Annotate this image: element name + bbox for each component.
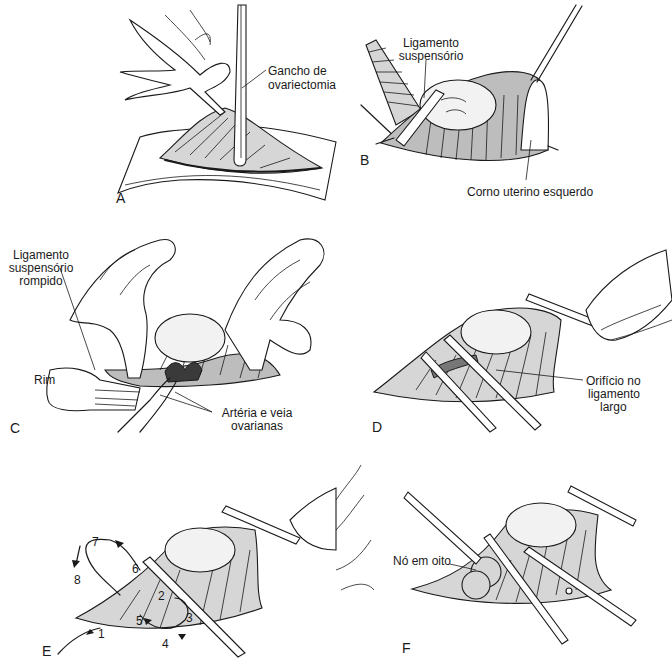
- panel-letter-c: C: [10, 420, 20, 436]
- label-suspensory-ligament-line1: Ligamento: [396, 36, 466, 50]
- panel-e-illustration: [0, 440, 336, 665]
- panel-letter-e: E: [42, 643, 51, 659]
- suture-step-4: 4: [162, 638, 169, 650]
- suture-step-3: 3: [186, 612, 193, 624]
- leader-line-hook: [0, 0, 336, 210]
- panel-c: Ligamento suspensório rompido Rim Artéri…: [0, 210, 336, 440]
- panel-a: Gancho de ovariectomia A: [0, 0, 336, 210]
- label-figure-eight-knot: Nó em oito: [393, 554, 451, 568]
- label-torn-ligament-line3: rompido: [6, 274, 76, 288]
- panel-b-illustration: [336, 0, 672, 210]
- panel-e: 1 2 3 4 5 6 7 8 E: [0, 440, 336, 665]
- label-left-uterine-horn: Corno uterino esquerdo: [467, 185, 593, 199]
- panel-f: Nó em oito F: [336, 440, 672, 665]
- panel-letter-d: D: [372, 419, 382, 435]
- panel-d: Orifício no ligamento largo D: [336, 210, 672, 440]
- panel-letter-b: B: [360, 152, 369, 168]
- label-ovarian-vessels-line1: Artéria e veia: [212, 406, 302, 420]
- suture-step-2: 2: [158, 590, 165, 602]
- suture-step-7: 7: [92, 536, 99, 548]
- panel-letter-f: F: [402, 640, 411, 656]
- panel-b: Ligamento suspensório Corno uterino esqu…: [336, 0, 672, 210]
- label-hole-broad-ligament-line1: Orifício no: [586, 374, 641, 388]
- label-suspensory-ligament-line2: suspensório: [396, 49, 466, 63]
- label-hole-broad-ligament-line2: ligamento: [588, 387, 640, 401]
- label-ovarian-vessels-line2: ovarianas: [212, 419, 302, 433]
- label-kidney: Rim: [34, 373, 55, 387]
- panel-letter-a: A: [116, 190, 125, 206]
- suture-step-5: 5: [136, 615, 143, 627]
- label-torn-ligament-line2: suspensório: [6, 261, 76, 275]
- suture-step-6: 6: [132, 563, 139, 575]
- label-torn-ligament-line1: Ligamento: [6, 248, 76, 262]
- suture-step-8: 8: [74, 574, 81, 586]
- suture-step-1: 1: [98, 628, 105, 640]
- panel-f-illustration: [336, 440, 672, 665]
- label-hole-broad-ligament-line3: largo: [600, 400, 627, 414]
